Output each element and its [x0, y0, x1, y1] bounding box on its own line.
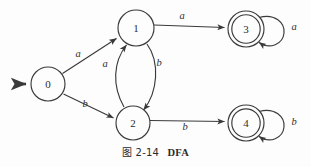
figure-caption: 图 2-14 DFA	[0, 144, 311, 159]
edge-label-self-loop-4: b	[291, 116, 296, 127]
edge-label-2-to-4: b	[182, 121, 187, 132]
state-label-0: 0	[45, 78, 51, 90]
edge-label-0-to-2: b	[82, 98, 87, 109]
edge-label-2-to-1: a	[102, 58, 107, 69]
edge-1-to-2	[144, 44, 156, 110]
edge-0-to-1	[63, 39, 117, 74]
figure-page: 0 1 2 3 4 a b a a b b a b 图 2-14 DFA	[0, 0, 311, 167]
edge-0-to-2	[64, 94, 114, 118]
edge-label-self-loop-3: a	[291, 21, 296, 32]
figure-title: DFA	[168, 147, 189, 158]
edge-label-0-to-1: a	[75, 48, 80, 59]
edge-1-to-3	[154, 25, 225, 28]
edge-label-1-to-3: a	[179, 10, 184, 21]
figure-number: 图 2-14	[122, 147, 159, 158]
caption-separator	[159, 147, 167, 158]
edge-2-to-1	[116, 45, 127, 107]
state-label-2: 2	[130, 117, 136, 129]
state-label-3: 3	[243, 23, 249, 35]
state-label-4: 4	[243, 117, 249, 129]
dfa-diagram: 0 1 2 3 4 a b a a b b a b	[0, 0, 311, 167]
state-label-1: 1	[133, 22, 139, 34]
edge-label-1-to-2: b	[156, 57, 161, 68]
